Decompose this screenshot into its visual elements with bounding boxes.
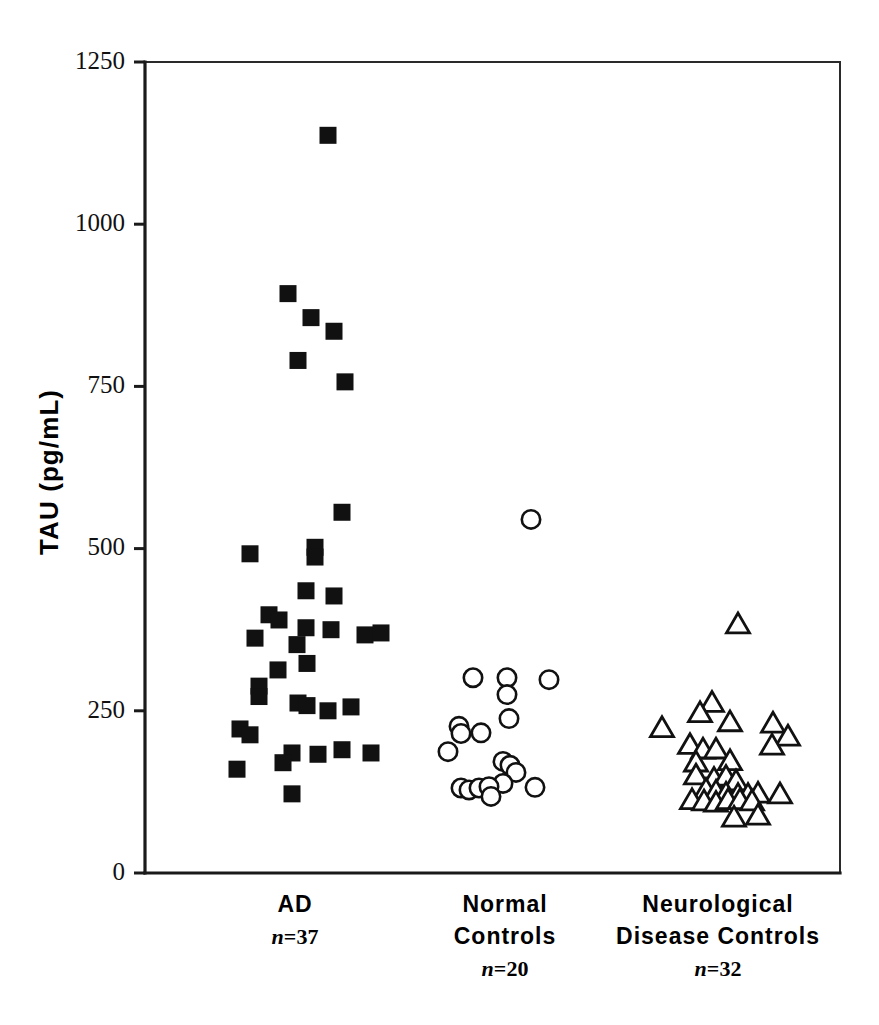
data-point-square — [357, 626, 374, 643]
data-point-square — [284, 785, 301, 802]
figure-container: 025050075010001250 TAU (pg/mL) ADn=37Nor… — [0, 0, 879, 1025]
data-point-triangle — [727, 613, 750, 633]
data-point-square — [271, 611, 288, 628]
n-value: =32 — [707, 956, 742, 981]
data-point-square — [299, 697, 316, 714]
series-neurological-disease-controls — [651, 613, 800, 826]
data-markers — [229, 127, 800, 826]
data-point-triangle — [719, 711, 742, 731]
plot-frame — [145, 62, 840, 873]
data-point-square — [275, 754, 292, 771]
data-point-square — [280, 285, 297, 302]
n-value: =20 — [494, 956, 529, 981]
data-point-triangle — [651, 717, 674, 737]
data-point-square — [323, 621, 340, 638]
data-point-circle — [482, 787, 500, 805]
data-point-square — [373, 624, 390, 641]
data-point-triangle — [762, 712, 785, 732]
data-point-square — [242, 545, 259, 562]
data-point-square — [290, 352, 307, 369]
category-sample-size: n=20 — [482, 956, 529, 981]
data-point-square — [298, 619, 315, 636]
x-axis-category-labels: ADn=37NormalControlsn=20NeurologicalDise… — [272, 891, 820, 981]
data-point-square — [337, 373, 354, 390]
data-point-square — [334, 504, 351, 521]
data-point-square — [247, 630, 264, 647]
data-point-circle — [452, 724, 470, 742]
n-italic: n — [695, 956, 707, 981]
scatter-plot: 025050075010001250 TAU (pg/mL) ADn=37Nor… — [0, 0, 879, 1025]
data-point-circle — [439, 742, 457, 760]
data-point-square — [251, 688, 268, 705]
data-point-square — [326, 323, 343, 340]
series-ad — [229, 127, 390, 803]
y-tick-label: 250 — [88, 696, 126, 723]
data-point-square — [320, 702, 337, 719]
y-tick-label: 750 — [88, 371, 126, 398]
y-axis-title: TAU (pg/mL) — [34, 389, 64, 555]
category-label-line1: AD — [277, 891, 312, 917]
data-point-circle — [526, 778, 544, 796]
n-value: =37 — [284, 924, 319, 949]
data-point-square — [326, 587, 343, 604]
data-point-circle — [498, 685, 516, 703]
data-point-circle — [500, 709, 518, 727]
y-tick-label: 500 — [88, 533, 126, 560]
series-normal-controls — [439, 510, 558, 805]
data-point-triangle — [769, 783, 792, 803]
data-point-circle — [472, 724, 490, 742]
data-point-square — [334, 741, 351, 758]
data-point-square — [307, 549, 324, 566]
category-label-line2: Disease Controls — [616, 923, 820, 949]
y-tick-label: 1000 — [75, 209, 125, 236]
data-point-square — [303, 309, 320, 326]
data-point-square — [320, 127, 337, 144]
y-axis-title-text: TAU (pg/mL) — [34, 389, 64, 555]
data-point-square — [363, 744, 380, 761]
category-label-line2: Controls — [454, 923, 557, 949]
data-point-square — [299, 655, 316, 672]
data-point-circle — [540, 670, 558, 688]
category-sample-size: n=32 — [695, 956, 742, 981]
y-tick-label: 1250 — [75, 47, 125, 74]
data-point-circle — [522, 510, 540, 528]
data-point-circle — [464, 669, 482, 687]
category-label-line1: Normal — [462, 891, 547, 917]
data-point-square — [242, 726, 259, 743]
n-italic: n — [482, 956, 494, 981]
y-tick-label: 0 — [113, 858, 126, 885]
n-italic: n — [272, 924, 284, 949]
data-point-square — [343, 698, 360, 715]
data-point-square — [298, 582, 315, 599]
data-point-square — [229, 761, 246, 778]
frame-top-right — [145, 62, 840, 873]
category-sample-size: n=37 — [272, 924, 319, 949]
data-point-square — [289, 636, 306, 653]
y-axis-ticks: 025050075010001250 — [75, 47, 145, 885]
data-point-square — [270, 661, 287, 678]
data-point-square — [310, 746, 327, 763]
category-label-line1: Neurological — [642, 891, 793, 917]
